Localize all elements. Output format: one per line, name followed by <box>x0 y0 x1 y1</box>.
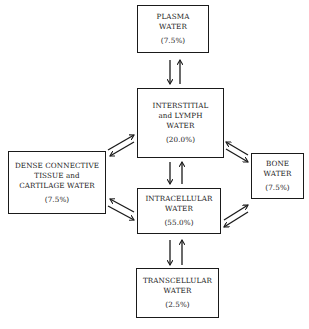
node-percent: (7.5%) <box>265 183 289 193</box>
node-percent: (7.5%) <box>45 195 69 205</box>
node-label-line: and LYMPH <box>158 111 202 121</box>
node-label-line: WATER <box>264 169 292 179</box>
node-percent: (2.5%) <box>165 300 189 310</box>
node-label-line: INTRACELLULAR <box>145 194 212 204</box>
dense-connective-tissue-water-box: DENSE CONNECTIVE TISSUE and CARTILAGE WA… <box>8 151 106 214</box>
node-label-line: WATER <box>167 121 195 131</box>
arrow-bone-to-interstitial <box>226 142 248 155</box>
arrow-dense-to-intracellular <box>108 206 134 220</box>
node-label-line: PLASMA <box>157 12 190 22</box>
node-percent: (20.0%) <box>166 135 195 145</box>
arrow-interstitial-to-bone <box>226 149 248 162</box>
node-percent: (55.0%) <box>164 218 193 228</box>
arrow-intracellular-to-bone <box>224 205 248 220</box>
node-label-line: WATER <box>165 204 193 214</box>
arrow-intracellular-to-dense <box>110 199 134 212</box>
intracellular-water-box: INTRACELLULAR WATER (55.0%) <box>137 188 221 234</box>
node-label-line: WATER <box>164 286 192 296</box>
node-label-line: CARTILAGE WATER <box>19 181 95 191</box>
node-label-line: INTERSTITIAL <box>153 101 209 111</box>
arrow-dense-to-interstitial <box>108 135 134 150</box>
node-label-line: TRANSCELLULAR <box>143 276 212 286</box>
arrow-bone-to-intracellular <box>224 212 248 227</box>
interstitial-lymph-water-box: INTERSTITIAL and LYMPH WATER (20.0%) <box>137 88 224 158</box>
node-label-line: WATER <box>159 22 187 32</box>
node-label-line: BONE <box>266 159 289 169</box>
transcellular-water-box: TRANSCELLULAR WATER (2.5%) <box>136 268 219 318</box>
plasma-water-box: PLASMA WATER (7.5%) <box>137 5 209 53</box>
node-label-line: TISSUE and <box>34 171 79 181</box>
bone-water-box: BONE WATER (7.5%) <box>251 153 304 199</box>
node-label-line: DENSE CONNECTIVE <box>15 161 99 171</box>
node-percent: (7.5%) <box>161 36 185 46</box>
arrow-interstitial-to-dense <box>110 142 134 156</box>
